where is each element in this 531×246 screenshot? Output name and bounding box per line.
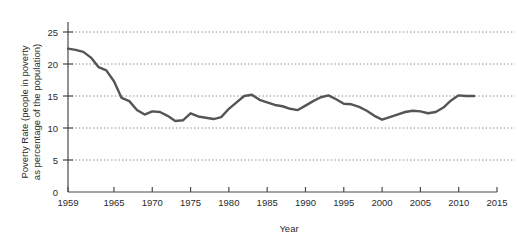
x-axis-ticks: 1959196519701975198019851990199520002005… bbox=[57, 187, 507, 208]
x-tick-label-1980: 1980 bbox=[218, 197, 239, 208]
x-tick-label-1995: 1995 bbox=[333, 197, 354, 208]
y-axis-ticks: 0510152025 bbox=[47, 27, 73, 198]
y-axis-title-line1: Poverty Rate (people in poverty bbox=[19, 45, 30, 178]
x-tick-label-1990: 1990 bbox=[295, 197, 316, 208]
x-tick-label-1970: 1970 bbox=[142, 197, 163, 208]
x-tick-label-2005: 2005 bbox=[410, 197, 431, 208]
poverty-rate-series-line bbox=[68, 49, 474, 121]
y-tick-label-25: 25 bbox=[47, 27, 58, 38]
poverty-rate-line-chart: 1959196519701975198019851990199520002005… bbox=[0, 0, 531, 246]
y-tick-label-20: 20 bbox=[47, 59, 58, 70]
y-tick-label-10: 10 bbox=[47, 123, 58, 134]
x-tick-label-1975: 1975 bbox=[180, 197, 201, 208]
gridlines bbox=[68, 32, 515, 160]
x-axis-title: Year bbox=[279, 223, 298, 234]
x-tick-label-1959: 1959 bbox=[57, 197, 78, 208]
chart-canvas: 1959196519701975198019851990199520002005… bbox=[0, 0, 531, 246]
x-tick-label-2000: 2000 bbox=[372, 197, 393, 208]
x-tick-label-2015: 2015 bbox=[486, 197, 507, 208]
y-tick-label-5: 5 bbox=[53, 155, 58, 166]
y-tick-label-15: 15 bbox=[47, 91, 58, 102]
x-tick-label-1985: 1985 bbox=[257, 197, 278, 208]
x-tick-label-1965: 1965 bbox=[103, 197, 124, 208]
y-tick-label-0: 0 bbox=[53, 187, 58, 198]
y-axis-title-line2: as percentage of the population) bbox=[31, 44, 42, 180]
x-tick-label-2010: 2010 bbox=[448, 197, 469, 208]
